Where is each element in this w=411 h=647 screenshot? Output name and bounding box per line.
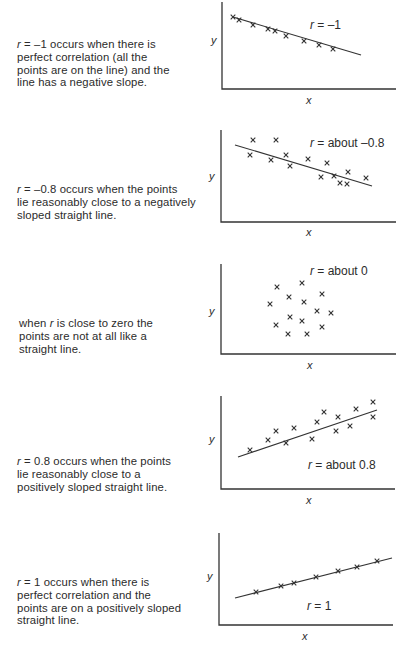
data-point-marker <box>310 437 315 442</box>
data-point-marker <box>300 319 305 324</box>
y-axis-label: y <box>208 305 216 317</box>
data-point-marker <box>364 176 369 181</box>
y-axis-label: y <box>208 433 216 445</box>
data-point-marker <box>248 448 253 453</box>
x-axis-label: x <box>305 226 312 238</box>
data-point-marker <box>315 309 320 314</box>
trend-line <box>233 17 361 55</box>
data-point-marker <box>284 441 289 446</box>
data-point-marker <box>286 332 291 337</box>
data-point-marker <box>329 311 334 316</box>
trend-line <box>238 410 377 457</box>
x-axis-label: x <box>305 94 312 106</box>
correlation-label: r = –1 <box>310 18 341 32</box>
data-point-marker <box>336 415 341 420</box>
data-point-marker <box>345 182 350 187</box>
trend-line <box>235 145 372 186</box>
data-point-marker <box>288 315 293 320</box>
data-point-marker <box>266 438 271 443</box>
correlation-label: r = about 0.8 <box>308 458 376 472</box>
x-axis-label: x <box>306 359 313 371</box>
data-point-marker <box>320 292 325 297</box>
data-point-marker <box>284 34 289 39</box>
plot-r-1: y x r = 1 <box>206 533 393 642</box>
data-point-marker <box>338 181 343 186</box>
y-axis-label: y <box>210 34 218 46</box>
data-point-marker <box>325 161 330 166</box>
axes <box>222 2 396 89</box>
data-point-marker <box>315 420 320 425</box>
data-point-marker <box>302 300 307 305</box>
data-point-marker <box>292 426 297 431</box>
data-point-marker <box>306 157 311 162</box>
trend-line <box>235 558 392 598</box>
x-axis-label: x <box>305 494 312 506</box>
data-points <box>268 281 334 337</box>
data-point-marker <box>371 400 376 405</box>
data-point-marker <box>331 47 336 52</box>
data-point-marker <box>319 175 324 180</box>
data-point-marker <box>300 281 305 286</box>
data-point-marker <box>284 153 289 158</box>
data-point-marker <box>274 429 279 434</box>
data-point-marker <box>354 407 359 412</box>
plot-r-0.8: y x r = about 0.8 <box>208 396 395 506</box>
axes <box>221 396 395 489</box>
data-point-marker <box>287 295 292 300</box>
data-point-marker <box>334 429 339 434</box>
y-axis-label: y <box>208 170 216 182</box>
plot-r-minus-1: y x r = –1 <box>210 2 396 106</box>
data-point-marker <box>288 164 293 169</box>
correlation-label: r = about 0 <box>310 264 368 278</box>
data-point-marker <box>251 138 256 143</box>
x-axis-label: x <box>301 630 308 642</box>
data-point-marker <box>305 332 310 337</box>
data-point-marker <box>346 170 351 175</box>
data-point-marker <box>275 285 280 290</box>
axes <box>219 533 393 625</box>
data-point-marker <box>274 323 279 328</box>
y-axis-label: y <box>206 570 214 582</box>
correlation-label: r = 1 <box>307 599 332 613</box>
data-point-marker <box>274 138 279 143</box>
data-point-marker <box>317 43 322 48</box>
correlation-label: r = about –0.8 <box>310 136 385 150</box>
data-point-marker <box>320 325 325 330</box>
plot-r-minus-0.8: y x r = about –0.8 <box>208 130 396 238</box>
scatter-plots: y x r = –1 y x r = about –0.8 y x r = ab… <box>0 0 411 647</box>
data-point-marker <box>248 153 253 158</box>
data-point-marker <box>269 158 274 163</box>
data-point-marker <box>322 410 327 415</box>
data-point-marker <box>348 424 353 429</box>
data-point-marker <box>268 302 273 307</box>
plot-r-about-0: y x r = about 0 <box>208 264 396 371</box>
data-point-marker <box>302 39 307 44</box>
data-point-marker <box>371 415 376 420</box>
axes <box>221 264 396 354</box>
data-points <box>248 400 376 453</box>
